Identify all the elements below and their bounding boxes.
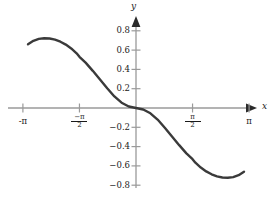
x-tick-label-denominator: 2 bbox=[185, 121, 201, 129]
x-tick-label-numerator: π bbox=[185, 114, 201, 121]
function-graph bbox=[0, 0, 277, 197]
y-tick-label: 0.4 bbox=[104, 65, 130, 74]
y-tick-label: −0.2 bbox=[104, 123, 130, 132]
x-tick-label-denominator: 2 bbox=[71, 121, 87, 129]
x-tick-label: π bbox=[241, 117, 257, 126]
x-axis-label: x bbox=[262, 102, 267, 111]
y-tick-label: −0.4 bbox=[104, 142, 130, 151]
chart-background bbox=[0, 0, 277, 197]
y-tick-label: −0.6 bbox=[104, 161, 130, 170]
y-axis-label: y bbox=[131, 2, 136, 11]
y-tick-label: 0.8 bbox=[104, 26, 130, 35]
x-tick-label: π2 bbox=[185, 114, 201, 130]
x-tick-label: -π bbox=[15, 117, 31, 126]
x-tick-label: −π2 bbox=[71, 114, 87, 130]
y-tick-label: −0.8 bbox=[104, 181, 130, 190]
y-tick-label: 0.2 bbox=[104, 84, 130, 93]
x-tick-label-numerator: −π bbox=[71, 114, 87, 121]
y-tick-label: 0.6 bbox=[104, 46, 130, 55]
